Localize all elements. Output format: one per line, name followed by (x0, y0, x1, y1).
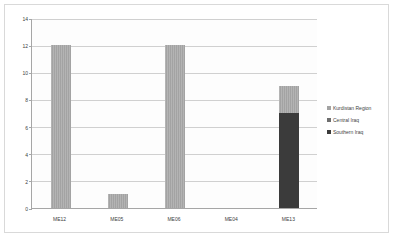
y-axis-tick (29, 209, 32, 210)
bar-stack[interactable] (108, 194, 128, 208)
x-axis-tick-label: ME04 (203, 216, 260, 223)
bar-stack[interactable] (279, 86, 299, 208)
legend-item[interactable]: Kurdistan Region (327, 103, 389, 113)
y-axis-tick-label: 6 (8, 125, 28, 131)
y-axis-tick-label: 14 (8, 16, 28, 22)
x-axis: ME12ME05ME06ME04ME13 (31, 211, 317, 227)
bar-group (32, 19, 89, 208)
chart-frame: 02468101214 ME12ME05ME06ME04ME13 Kurdist… (4, 4, 389, 233)
bar-segment[interactable] (51, 45, 71, 208)
y-axis-tick-label: 0 (8, 206, 28, 212)
legend-item-label: Southern Iraq (333, 129, 363, 135)
y-axis-tick-label: 8 (8, 97, 28, 103)
bar-segment[interactable] (279, 86, 299, 113)
x-axis-tick-label: ME12 (31, 216, 88, 223)
bar-stack[interactable] (51, 45, 71, 208)
y-axis-tick-label: 12 (8, 43, 28, 49)
legend-item-label: Kurdistan Region (333, 105, 371, 111)
legend-item-label: Central Iraq (333, 117, 359, 123)
bar-group (146, 19, 203, 208)
legend-item[interactable]: Central Iraq (327, 115, 389, 125)
bar-segment[interactable] (108, 194, 128, 208)
legend-item[interactable]: Southern Iraq (327, 127, 389, 137)
legend-swatch-icon (327, 130, 331, 134)
x-axis-tick-label: ME06 (145, 216, 202, 223)
chart-legend: Kurdistan RegionCentral IraqSouthern Ira… (327, 103, 389, 139)
y-axis-tick-label: 2 (8, 179, 28, 185)
bar-segment[interactable] (279, 113, 299, 208)
x-axis-tick-label: ME13 (260, 216, 317, 223)
plot-area (31, 19, 317, 209)
legend-swatch-icon (327, 106, 331, 110)
bar-group (204, 19, 261, 208)
bar-stack[interactable] (165, 45, 185, 208)
bar-group (89, 19, 146, 208)
bar-group (261, 19, 318, 208)
bar-segment[interactable] (165, 45, 185, 208)
y-axis-tick-label: 10 (8, 70, 28, 76)
x-axis-tick-label: ME05 (88, 216, 145, 223)
legend-swatch-icon (327, 118, 331, 122)
y-axis: 02468101214 (5, 19, 28, 209)
y-axis-tick-label: 4 (8, 152, 28, 158)
